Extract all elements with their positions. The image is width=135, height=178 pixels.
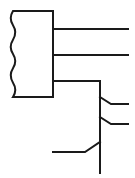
bottom-angled-lead	[53, 142, 100, 152]
schematic-canvas	[0, 0, 135, 178]
tap-connection-1	[100, 97, 128, 104]
cable-body-broken-rectangle	[11, 11, 53, 97]
schematic-figure	[0, 0, 135, 178]
tap-connection-2	[100, 117, 128, 124]
